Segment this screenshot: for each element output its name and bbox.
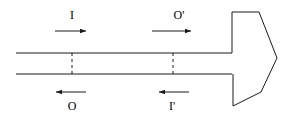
label-incident-upper: I xyxy=(70,9,74,21)
figure-canvas xyxy=(0,0,285,119)
label-output-lower: O xyxy=(68,100,77,112)
waveguide-figure: I O' O I' xyxy=(0,0,285,119)
horn-aperture-outline xyxy=(232,12,277,106)
label-incident-lower: I' xyxy=(169,100,175,112)
label-output-upper: O' xyxy=(174,9,185,21)
